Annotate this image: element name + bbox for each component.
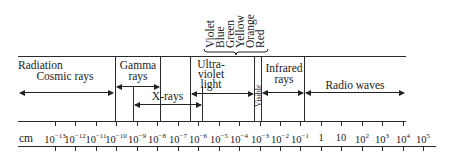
axis-tick-label: 1	[318, 132, 323, 143]
divider-gamma-end	[160, 56, 161, 122]
unit-label: cm	[19, 132, 33, 144]
divider-xray-end	[202, 86, 203, 122]
axis-tick-label: 102	[355, 132, 369, 145]
region-label-uv-line3: light	[191, 79, 231, 90]
axis-tick-bottom	[75, 147, 76, 151]
axis-tick-label: 10−12	[64, 132, 85, 145]
axis-tick-top	[403, 122, 404, 126]
axis-tick-label: 104	[396, 132, 410, 145]
region-label-radio-waves: Radio waves	[315, 80, 395, 91]
axis-tick-bottom	[321, 147, 322, 151]
axis-tick-bottom	[341, 147, 342, 151]
range-arrow-radio-waves	[306, 92, 404, 93]
axis-tick-bottom	[280, 147, 281, 151]
axis-tick-label: 10−11	[85, 132, 106, 145]
axis-tick-top	[260, 122, 261, 126]
axis-tick-bottom	[362, 147, 363, 151]
axis-tick-top	[55, 122, 56, 126]
bottom-axis-line	[18, 146, 436, 147]
axis-tick-top	[157, 122, 158, 126]
axis-tick-top	[219, 122, 220, 126]
axis-tick-bottom	[382, 147, 383, 151]
visible-bracket-icon	[203, 48, 269, 57]
axis-tick-label: 10−3	[251, 132, 269, 145]
range-arrow-gamma-rays	[117, 86, 159, 87]
axis-tick-label: 10−1	[291, 132, 309, 145]
axis-tick-bottom	[116, 147, 117, 151]
axis-tick-bottom	[219, 147, 220, 151]
axis-tick-bottom	[178, 147, 179, 151]
axis-tick-label: 10−6	[189, 132, 207, 145]
axis-tick-label: 10−13	[44, 132, 65, 145]
axis-tick-top	[137, 122, 138, 126]
region-label-infrared-line2: rays	[264, 74, 304, 85]
axis-tick-bottom	[423, 147, 424, 151]
region-label-visible: Visible	[254, 84, 263, 107]
axis-tick-top	[321, 122, 322, 126]
axis-tick-bottom	[198, 147, 199, 151]
axis-tick-label: 10−7	[169, 132, 187, 145]
axis-tick-label: 10−10	[105, 132, 126, 145]
axis-tick-top	[300, 122, 301, 126]
axis-tick-label: 10−9	[128, 132, 146, 145]
range-arrow-infrared	[263, 92, 303, 93]
axis-tick-label: 105	[416, 132, 430, 145]
axis-tick-top	[75, 122, 76, 126]
range-arrow-cosmic-rays	[20, 92, 113, 93]
region-label-gamma-line2: rays	[116, 71, 160, 82]
axis-tick-label: 10−8	[148, 132, 166, 145]
axis-tick-label: 10−4	[230, 132, 248, 145]
axis-tick-top	[382, 122, 383, 126]
axis-tick-label: 10	[336, 132, 347, 143]
color-red: Red	[256, 29, 265, 48]
axis-tick-top	[178, 122, 179, 126]
axis-tick-bottom	[137, 147, 138, 151]
axis-tick-bottom	[96, 147, 97, 151]
range-arrow-x-rays	[135, 104, 201, 105]
axis-tick-top	[280, 122, 281, 126]
axis-tick-bottom	[55, 147, 56, 151]
axis-tick-top	[341, 122, 342, 126]
axis-line	[18, 121, 406, 122]
axis-tick-top	[116, 122, 117, 126]
region-label-x-rays: X-rays	[145, 91, 190, 102]
axis-tick-bottom	[300, 147, 301, 151]
axis-tick-top	[362, 122, 363, 126]
axis-tick-top	[96, 122, 97, 126]
axis-tick-label: 103	[375, 132, 389, 145]
axis-tick-bottom	[157, 147, 158, 151]
axis-tick-label: 10−5	[210, 132, 228, 145]
axis-tick-bottom	[239, 147, 240, 151]
region-label-cosmic-rays: Cosmic rays	[30, 71, 100, 82]
range-arrow-ultraviolet	[192, 93, 253, 94]
axis-tick-label: 10−2	[271, 132, 289, 145]
axis-tick-bottom	[403, 147, 404, 151]
axis-tick-bottom	[260, 147, 261, 151]
axis-tick-top	[239, 122, 240, 126]
axis-tick-top	[198, 122, 199, 126]
